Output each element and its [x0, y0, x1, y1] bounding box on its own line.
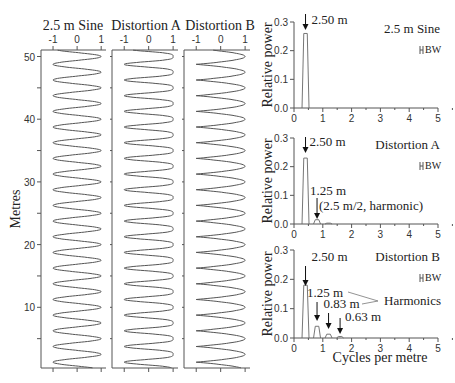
arrow-icon	[314, 315, 320, 321]
y-axis-label: Relative power	[260, 251, 275, 336]
x-axis-label: Cycles per metre	[333, 350, 428, 365]
tick-label: 0	[74, 34, 80, 45]
spectral-peak	[314, 220, 321, 224]
arrow-icon	[303, 24, 309, 30]
arrow-icon	[337, 328, 343, 334]
annotation: 2.50 m	[312, 12, 348, 27]
depth-panel-distortion-b: Distortion B -101	[182, 18, 255, 372]
tick-label: 2	[349, 229, 355, 240]
tick-label: 0.1	[274, 303, 288, 314]
tick-label: 1	[320, 113, 326, 124]
panel-title: Distortion A	[111, 18, 182, 33]
tick-label: 0.3	[274, 133, 288, 144]
tick-label: 2	[349, 113, 355, 124]
tick-label: 0.2	[274, 161, 288, 172]
tick-label: 0	[146, 34, 152, 45]
annotation: 2.50 m	[310, 134, 346, 149]
panel-title: 2.5 m Sine	[43, 18, 103, 33]
y-axis-label: Metres	[8, 190, 23, 229]
tick-label: 3	[378, 113, 384, 124]
tick-label: 0.0	[274, 219, 288, 230]
spectrum-panel-sine: 0.00.10.20.3012345Relative power2.5 m Si…	[260, 12, 452, 124]
spectral-peak	[302, 33, 309, 108]
annotation: (2.5 m/2, harmonic)	[319, 198, 423, 213]
tick-label: 1	[170, 34, 176, 45]
tick-label: 50	[24, 52, 36, 63]
legend-bw: BW	[425, 160, 442, 171]
figure: 2.5 m Sine -101 Distortion A -101 Distor…	[0, 0, 455, 383]
tick-label: 3	[378, 229, 384, 240]
tick-label: 1	[320, 343, 326, 354]
tick-label: 0.2	[274, 45, 288, 56]
tick-label: 0.1	[274, 74, 288, 85]
depth-y-axis: 1020304050	[24, 52, 36, 314]
tick-label: 40	[24, 114, 36, 125]
spectral-peak	[314, 326, 321, 338]
tick-label: 0	[218, 34, 224, 45]
tick-label: 1	[98, 34, 104, 45]
tick-label: -1	[120, 34, 129, 45]
spectral-peak	[302, 158, 309, 224]
legend-bw: BW	[425, 272, 442, 283]
tick-label: 1	[242, 34, 248, 45]
tick-label: 0.3	[274, 245, 288, 256]
sine-curve	[53, 50, 101, 368]
distortion-a-curve	[124, 50, 173, 368]
arrow-icon	[303, 147, 309, 153]
tick-label: -1	[49, 34, 58, 45]
spectrum-panel-distortion-b: 0.00.10.20.3012345Relative powerDistorti…	[260, 245, 452, 355]
annotation: Harmonics	[384, 293, 441, 308]
tick-label: 0.3	[274, 17, 288, 28]
tick-label: 4	[406, 229, 412, 240]
depth-panel-sine: 2.5 m Sine -101	[37, 18, 106, 372]
tick-label: 0	[291, 343, 297, 354]
tick-label: 5	[435, 113, 441, 124]
panel-title: Distortion B	[375, 249, 440, 264]
tick-label: 10	[24, 302, 36, 313]
tick-label: 30	[24, 177, 36, 188]
y-axis-label: Relative power	[260, 138, 275, 223]
panel-title: 2.5 m Sine	[384, 21, 440, 36]
annotation: 2.50 m	[312, 249, 348, 264]
tick-label: 5	[435, 343, 441, 354]
tick-label: 4	[406, 113, 412, 124]
spectral-peak	[325, 334, 332, 338]
spectrum-panel-distortion-a: 0.00.10.20.3012345Relative powerDistorti…	[260, 133, 452, 241]
tick-label: 20	[24, 240, 36, 251]
tick-label: 0.2	[274, 274, 288, 285]
arrow-icon	[326, 323, 332, 329]
tick-label: 0	[291, 113, 297, 124]
annotation: 1.25 m	[310, 183, 346, 198]
panel-title: Distortion B	[185, 18, 255, 33]
tick-label: -1	[192, 34, 201, 45]
distortion-b-curve	[196, 50, 245, 368]
tick-label: 0.0	[274, 333, 288, 344]
tick-label: 1	[320, 229, 326, 240]
depth-panel-distortion-a: Distortion A -101	[110, 18, 182, 372]
tick-label: 0	[291, 229, 297, 240]
legend-bw: BW	[425, 44, 442, 55]
y-axis-label: Relative power	[260, 22, 275, 107]
arrow-icon	[314, 213, 320, 219]
tick-label: 5	[435, 229, 441, 240]
annotation: 0.63 m	[345, 309, 381, 324]
tick-label: 0.0	[274, 103, 288, 114]
panel-title: Distortion A	[375, 137, 440, 152]
tick-label: 0.1	[274, 190, 288, 201]
